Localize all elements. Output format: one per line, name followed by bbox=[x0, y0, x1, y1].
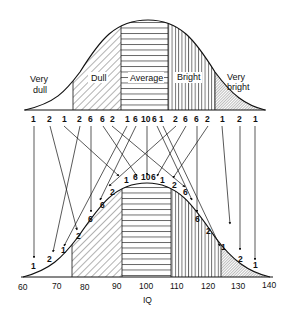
count: 1 bbox=[220, 114, 225, 124]
label-dull: Dull bbox=[91, 73, 107, 83]
top-counts: 1 2 1 2 6 6 2 1 6 10 6 1 2 6 6 2 1 2 1 bbox=[31, 114, 258, 124]
dull-region-top bbox=[73, 0, 121, 110]
label-bright: Bright bbox=[177, 72, 201, 82]
count: 2 bbox=[172, 180, 177, 190]
count: 1 bbox=[61, 245, 66, 255]
count: 1 bbox=[253, 114, 258, 124]
count: 2 bbox=[110, 114, 115, 124]
x-tick: 80 bbox=[80, 282, 90, 292]
count: 1 bbox=[221, 242, 226, 252]
count: 6 bbox=[183, 187, 188, 197]
x-tick: 100 bbox=[139, 281, 153, 291]
count: 1 bbox=[62, 114, 67, 124]
count: 1 bbox=[31, 261, 36, 271]
count: 2 bbox=[205, 114, 210, 124]
count: 1 bbox=[253, 260, 258, 270]
count: 10 bbox=[141, 172, 151, 182]
count: 2 bbox=[47, 114, 52, 124]
count: 1 bbox=[124, 175, 129, 185]
count: 2 bbox=[206, 226, 211, 236]
x-tick: 70 bbox=[52, 281, 62, 291]
count: 6 bbox=[133, 172, 138, 182]
x-axis-label: IQ bbox=[143, 295, 152, 305]
count: 2 bbox=[77, 114, 82, 124]
bright-region-top bbox=[168, 0, 215, 110]
count: 2 bbox=[237, 114, 242, 124]
top-distribution-curve: Very dull Dull Average Bright Very brigh… bbox=[24, 0, 270, 110]
label-average: Average bbox=[130, 73, 163, 83]
count: 6 bbox=[133, 114, 138, 124]
count: 6 bbox=[100, 114, 105, 124]
iq-distribution-diagram: Very dull Dull Average Bright Very brigh… bbox=[0, 0, 291, 322]
label-very-dull-2: dull bbox=[33, 85, 47, 95]
x-axis: 60 70 80 90 100 110 120 130 140 IQ bbox=[18, 280, 276, 305]
count: 6 bbox=[151, 172, 156, 182]
x-tick: 60 bbox=[18, 282, 28, 292]
average-region-top bbox=[121, 0, 168, 110]
count: 6 bbox=[152, 114, 157, 124]
x-tick: 90 bbox=[112, 281, 122, 291]
count: 2 bbox=[173, 114, 178, 124]
very-bright-region-top bbox=[215, 0, 270, 110]
label-very-bright-1: Very bbox=[227, 72, 246, 82]
count: 6 bbox=[100, 200, 105, 210]
x-tick: 110 bbox=[170, 281, 184, 291]
count: 2 bbox=[47, 254, 52, 264]
count: 1 bbox=[125, 114, 130, 124]
count: 6 bbox=[88, 114, 93, 124]
label-very-bright-2: bright bbox=[227, 82, 250, 92]
x-tick: 140 bbox=[262, 280, 276, 290]
dull-region-bottom bbox=[72, 150, 122, 277]
count: 1 bbox=[31, 114, 36, 124]
label-very-dull-1: Very bbox=[30, 74, 49, 84]
count: 2 bbox=[76, 231, 81, 241]
count: 6 bbox=[195, 214, 200, 224]
count: 6 bbox=[88, 214, 93, 224]
count: 2 bbox=[110, 187, 115, 197]
count: 6 bbox=[183, 114, 188, 124]
count: 1 bbox=[159, 114, 164, 124]
x-tick: 130 bbox=[231, 281, 245, 291]
count: 6 bbox=[194, 114, 199, 124]
count: 1 bbox=[160, 175, 165, 185]
count: 2 bbox=[238, 254, 243, 264]
count: 10 bbox=[141, 114, 151, 124]
x-tick: 120 bbox=[201, 281, 215, 291]
